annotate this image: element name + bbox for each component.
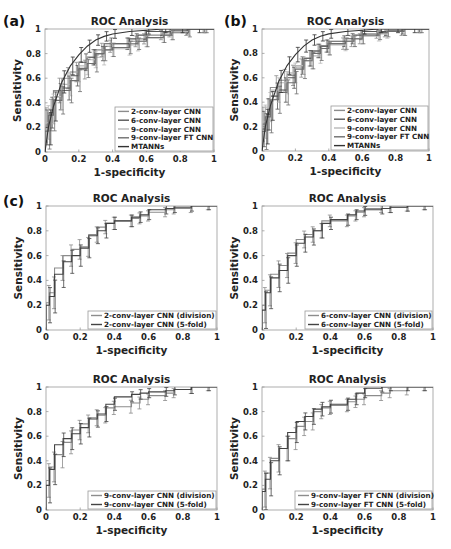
y-axis-label: Sensitivity: [228, 236, 240, 299]
y-tick-label: 0.6: [243, 73, 258, 83]
chart-title: ROC Analysis: [93, 192, 171, 204]
x-tick-label: 1: [430, 332, 436, 342]
x-tick-label: 0: [43, 512, 49, 522]
legend-entry: MTANNs: [131, 142, 164, 151]
y-tick-label: 0.4: [27, 275, 42, 285]
panel-label-a: (a): [3, 13, 25, 29]
x-tick-label: 1: [426, 153, 432, 163]
x-tick-label: 0.8: [391, 512, 406, 522]
roc-chart-b: ROC Analysis00.20.40.60.8100.20.40.60.81…: [228, 15, 432, 177]
y-tick-label: 0.2: [27, 480, 42, 490]
y-tick-label: 0.2: [27, 300, 42, 310]
roc-chart-c-6conv: ROC Analysis00.20.40.60.8100.20.40.60.81…: [228, 192, 436, 356]
x-tick-label: 0.2: [73, 512, 88, 522]
x-axis-label: 1-specificity: [94, 166, 166, 178]
y-tick-label: 0.4: [243, 275, 258, 285]
panel-label-c: (c): [3, 193, 24, 209]
x-tick-label: 0.6: [357, 332, 372, 342]
roc-chart-c-2conv: ROC Analysis00.20.40.60.8100.20.40.60.81…: [12, 192, 220, 356]
x-tick-label: 0.2: [71, 154, 86, 164]
y-tick-label: 1: [36, 382, 42, 392]
roc-chart-c-9conv: ROC Analysis00.20.40.60.8100.20.40.60.81…: [12, 373, 220, 536]
legend: 2-conv-layer CNN6-conv-layer CNN9-conv-l…: [115, 107, 213, 151]
legend-entry: 9-conv-layer CNN (division): [104, 491, 215, 500]
chart-title: ROC Analysis: [93, 373, 171, 385]
legend-entry: 2-conv-layer CNN: [131, 107, 201, 116]
legend-entry: 2-conv-layer CNN (division): [104, 311, 215, 320]
x-tick-label: 0: [259, 512, 265, 522]
panel-label-c-wrap: (c): [3, 193, 24, 209]
x-tick-label: 0.4: [107, 512, 122, 522]
y-tick-label: 0: [252, 146, 258, 156]
y-tick-label: 0.6: [26, 73, 41, 83]
panel-label-b-wrap: (b): [224, 13, 247, 29]
y-tick-label: 0.8: [27, 226, 42, 236]
x-tick-label: 0.8: [388, 153, 403, 163]
legend-entry: 6-conv-layer CNN (5-fold): [321, 320, 424, 329]
x-tick-label: 0.6: [141, 512, 156, 522]
chart-title: ROC Analysis: [309, 192, 387, 204]
legend-entry: 9-conv-layer FT CNN (5-fold): [311, 500, 426, 509]
legend-entry: 9-conv-layer FT CNN: [347, 132, 429, 141]
x-tick-label: 0: [259, 153, 265, 163]
y-tick-label: 1: [36, 201, 42, 211]
roc-chart-c-9conv-ft: ROC Analysis00.20.40.60.8100.20.40.60.81…: [228, 373, 436, 536]
x-axis-label: 1-specificity: [312, 524, 384, 536]
y-tick-label: 0.4: [26, 98, 41, 108]
x-tick-label: 0.6: [357, 512, 372, 522]
chart-title: ROC Analysis: [309, 373, 387, 385]
y-tick-label: 1: [252, 24, 258, 34]
roc-chart-a: ROC Analysis00.20.40.60.8100.20.40.60.81…: [11, 15, 217, 178]
y-tick-label: 0.2: [26, 122, 41, 132]
x-tick-label: 0.4: [105, 154, 120, 164]
y-tick-label: 0.2: [243, 480, 258, 490]
x-tick-label: 0.8: [175, 332, 190, 342]
legend-entry: 9-conv-layer FT CNN: [131, 133, 213, 142]
y-tick-label: 0: [36, 325, 42, 335]
y-tick-label: 0.2: [243, 122, 258, 132]
x-tick-label: 0.6: [141, 332, 156, 342]
y-axis-label: Sensitivity: [228, 417, 240, 480]
legend: 6-conv-layer CNN (division)6-conv-layer …: [305, 311, 432, 329]
x-tick-label: 0.4: [107, 332, 122, 342]
y-tick-label: 0.4: [243, 456, 258, 466]
y-tick-label: 0.8: [26, 49, 41, 59]
legend-entry: 2-conv-layer CNN: [347, 106, 417, 115]
legend-entry: 6-conv-layer CNN (division): [321, 311, 432, 320]
legend-entry: 6-conv-layer CNN: [131, 116, 201, 125]
x-tick-label: 0.8: [173, 154, 188, 164]
y-tick-label: 0.6: [27, 251, 42, 261]
x-tick-label: 0.4: [323, 512, 338, 522]
x-tick-label: 0.2: [73, 332, 88, 342]
x-tick-label: 1: [214, 512, 220, 522]
legend-entry: 9-conv-layer FT CNN (division): [311, 491, 434, 500]
x-tick-label: 1: [211, 154, 217, 164]
legend-entry: 9-conv-layer CNN: [347, 124, 417, 133]
x-tick-label: 0.8: [391, 332, 406, 342]
y-tick-label: 0: [252, 325, 258, 335]
panel-label-a-wrap: (a): [3, 13, 25, 29]
x-tick-label: 0: [43, 332, 49, 342]
x-axis-label: 1-specificity: [96, 344, 168, 356]
x-tick-label: 0: [259, 332, 265, 342]
y-tick-label: 0.8: [243, 226, 258, 236]
legend: 2-conv-layer CNN (division)2-conv-layer …: [88, 311, 216, 329]
x-tick-label: 0.2: [289, 512, 304, 522]
x-tick-label: 0.6: [355, 153, 370, 163]
y-tick-label: 1: [252, 201, 258, 211]
x-axis-label: 1-specificity: [310, 165, 382, 177]
y-tick-label: 0.8: [243, 48, 258, 58]
chart-title: ROC Analysis: [307, 15, 385, 27]
legend: 2-conv-layer CNN6-conv-layer CNN9-conv-l…: [331, 106, 429, 150]
y-tick-label: 0: [36, 505, 42, 515]
x-tick-label: 0.8: [175, 512, 190, 522]
y-tick-label: 0.2: [243, 300, 258, 310]
x-tick-label: 0.4: [323, 332, 338, 342]
legend-entry: MTANNs: [347, 141, 380, 150]
x-tick-label: 1: [214, 332, 220, 342]
y-tick-label: 0.8: [27, 407, 42, 417]
x-tick-label: 0.2: [288, 153, 303, 163]
y-axis-label: Sensitivity: [228, 58, 240, 121]
panel-label-b: (b): [224, 13, 247, 29]
y-axis-label: Sensitivity: [12, 417, 24, 480]
